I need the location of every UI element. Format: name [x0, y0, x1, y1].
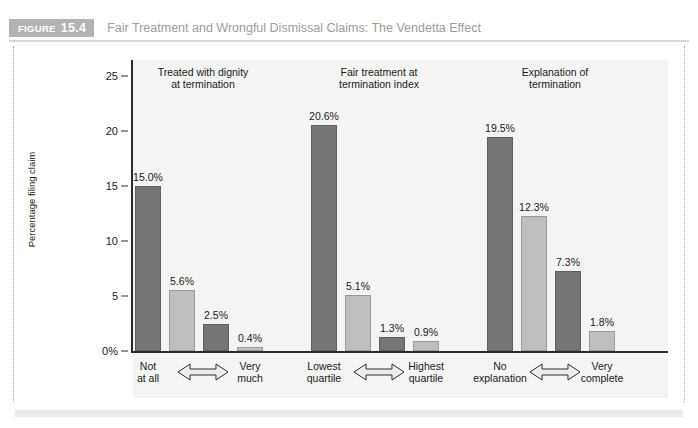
y-axis-tick-label: 25	[80, 70, 118, 82]
x-axis-category-label: Lowestquartile	[307, 360, 341, 384]
bar-value-label: 20.6%	[309, 110, 339, 122]
bar	[203, 324, 229, 351]
y-axis-tick-mark	[121, 131, 128, 132]
y-axis-tick-label: 0%	[80, 345, 118, 357]
bar-value-label: 0.9%	[414, 326, 438, 338]
bar-chart: Percentage filing claim 0%510152025 Trea…	[0, 46, 698, 402]
bar	[589, 331, 615, 351]
y-axis-title: Percentage filing claim	[26, 120, 37, 280]
x-axis-category-line1: Lowest	[307, 360, 341, 372]
bar	[487, 137, 513, 351]
x-axis-line	[131, 351, 668, 353]
x-axis-category-line2: quartile	[307, 372, 341, 384]
y-axis-tick-mark	[121, 296, 128, 297]
x-axis-category-label: Verycomplete	[581, 360, 624, 384]
x-axis-category-label: Notat all	[137, 360, 159, 384]
x-axis-category-line2: much	[237, 372, 263, 384]
x-axis-category-label: Verymuch	[237, 360, 263, 384]
figure-title: Fair Treatment and Wrongful Dismissal Cl…	[107, 21, 481, 35]
x-axis-category-line1: Highest	[408, 360, 444, 372]
x-axis-category-line1: Not	[137, 360, 159, 372]
bar	[345, 295, 371, 351]
bar	[135, 186, 161, 351]
bar	[521, 216, 547, 351]
x-axis-category-label: Noexplanation	[473, 360, 527, 384]
y-axis-tick-mark	[121, 186, 128, 187]
x-axis-category-line2: complete	[581, 372, 624, 384]
bar-value-label: 2.5%	[204, 309, 228, 321]
bar	[311, 125, 337, 351]
y-axis-tick-mark	[121, 76, 128, 77]
bar-value-label: 1.8%	[590, 316, 614, 328]
bar-value-label: 19.5%	[485, 122, 515, 134]
bar-value-label: 5.1%	[346, 280, 370, 292]
y-axis-tick-mark	[121, 241, 128, 242]
bar-value-label: 12.3%	[519, 201, 549, 213]
figure-badge-number: 15.4	[61, 21, 87, 35]
x-axis-category-line1: Very	[581, 360, 624, 372]
figure-header: FIGURE 15.4 Fair Treatment and Wrongful …	[0, 16, 698, 40]
bar-value-label: 5.6%	[170, 275, 194, 287]
x-axis-category-line1: No	[473, 360, 527, 372]
y-axis-ticks: 0%510152025	[72, 46, 118, 384]
figure-number-badge: FIGURE 15.4	[9, 19, 94, 37]
bar-value-label: 15.0%	[133, 171, 163, 183]
bar-value-label: 7.3%	[556, 256, 580, 268]
bar-value-label: 1.3%	[380, 322, 404, 334]
y-axis-tick-label: 10	[80, 235, 118, 247]
y-axis-tick-mark	[121, 351, 128, 352]
x-axis-categories: Notat allVerymuchLowestquartileHighestqu…	[131, 358, 668, 402]
bar	[237, 347, 263, 351]
bars-layer: 15.0%5.6%2.5%0.4%20.6%5.1%1.3%0.9%19.5%1…	[131, 60, 668, 351]
y-axis-tick-label: 20	[80, 125, 118, 137]
x-axis-category-line1: Very	[237, 360, 263, 372]
bar	[555, 271, 581, 351]
y-axis-tick-label: 15	[80, 180, 118, 192]
bar	[379, 337, 405, 351]
bar	[413, 341, 439, 351]
footer-band	[15, 410, 683, 417]
double-headed-arrow-icon	[353, 363, 405, 385]
figure-badge-word: FIGURE	[18, 23, 56, 34]
x-axis-category-line2: quartile	[408, 372, 444, 384]
double-headed-arrow-icon	[177, 363, 229, 385]
bar-value-label: 0.4%	[238, 332, 262, 344]
x-axis-category-line2: at all	[137, 372, 159, 384]
header-divider	[9, 40, 689, 42]
bar	[169, 290, 195, 351]
x-axis-category-line2: explanation	[473, 372, 527, 384]
double-headed-arrow-icon	[529, 363, 581, 385]
y-axis-tick-label: 5	[80, 290, 118, 302]
x-axis-category-label: Highestquartile	[408, 360, 444, 384]
